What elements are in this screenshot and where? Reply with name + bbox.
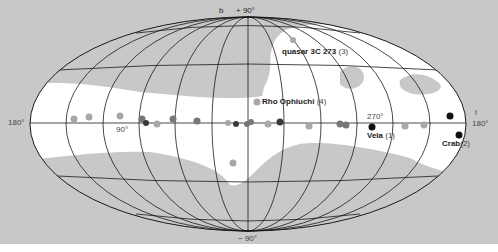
b-axis-label: b (219, 7, 223, 15)
right-180-label: 180° (472, 120, 489, 128)
longitude-270-label: 270° (367, 113, 384, 121)
source-label-crab: Crab(2) (442, 140, 470, 148)
longitude-90-label: 90° (116, 126, 128, 134)
source-label-vela: Vela (1) (367, 132, 395, 140)
source-label-quasar-3c273: quasar 3C 273 (3) (282, 48, 348, 56)
source-label-rho-ophiuchi: Rho Ophiuchi (4) (262, 98, 326, 106)
all-sky-map (0, 0, 498, 252)
left-180-label: 180° (8, 119, 25, 127)
south-pole-label: − 90° (238, 235, 257, 243)
north-pole-label: + 90° (236, 7, 255, 15)
l-axis-label: l (475, 109, 477, 117)
